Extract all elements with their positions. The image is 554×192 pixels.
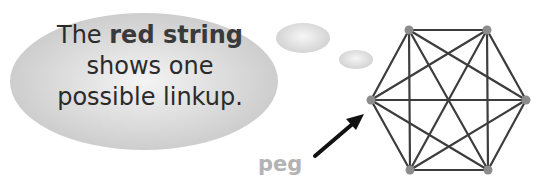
peg-bottom-left xyxy=(406,166,415,175)
hexagon-diagram xyxy=(0,0,554,192)
peg-bottom-right xyxy=(484,166,493,175)
peg-top-right xyxy=(483,26,492,35)
peg-left xyxy=(367,96,376,105)
peg-top-left xyxy=(405,26,414,35)
arrow-icon xyxy=(315,114,364,156)
string-edges xyxy=(371,30,526,170)
peg-right xyxy=(522,96,531,105)
